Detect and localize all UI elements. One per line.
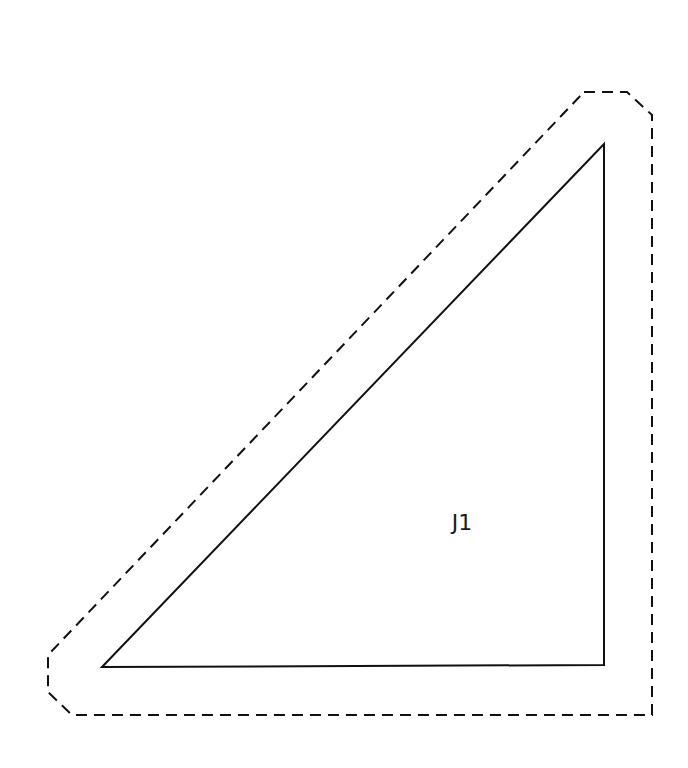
- template-diagram: J1: [0, 0, 688, 768]
- seam-allowance-outline: [48, 92, 652, 715]
- piece-label: J1: [450, 510, 473, 535]
- triangle-piece: [102, 144, 604, 667]
